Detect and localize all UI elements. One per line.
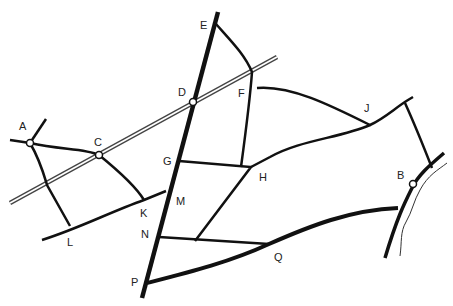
label-g: G [163, 156, 172, 167]
road-p-q-east [147, 208, 398, 283]
label-q: Q [274, 252, 283, 263]
label-a: A [19, 121, 26, 132]
label-m: M [176, 196, 185, 207]
river [400, 163, 447, 256]
railway-line [10, 57, 277, 203]
label-l: L [67, 237, 73, 248]
label-e: E [200, 20, 207, 31]
label-d: D [178, 87, 186, 98]
label-n: N [141, 229, 149, 240]
label-j: J [364, 103, 370, 114]
map-canvas [0, 0, 453, 306]
road-network-map: A B C D E F G H J K L M N P Q [0, 0, 453, 306]
station-markers [27, 99, 417, 188]
label-p: P [131, 277, 138, 288]
label-c: C [94, 137, 102, 148]
label-h: H [259, 172, 267, 183]
label-k: K [140, 208, 147, 219]
road-b [385, 153, 444, 258]
label-b: B [397, 170, 404, 181]
main-road [142, 12, 218, 298]
label-f: F [238, 88, 245, 99]
